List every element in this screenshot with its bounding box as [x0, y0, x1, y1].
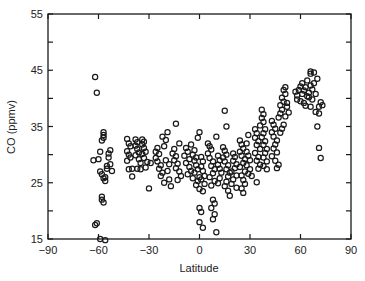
data-point [217, 176, 222, 181]
data-point [160, 134, 165, 139]
data-point [177, 141, 182, 146]
data-point [145, 159, 150, 164]
data-point [148, 160, 153, 165]
data-point [210, 217, 215, 222]
data-point [313, 91, 318, 96]
x-tick-label: −90 [39, 244, 58, 256]
data-point [182, 153, 187, 158]
data-point [264, 167, 269, 172]
data-point [305, 78, 310, 83]
data-point [146, 186, 151, 191]
y-tick-label: 15 [31, 233, 43, 245]
data-point [103, 238, 108, 243]
data-point [209, 205, 214, 210]
data-point [200, 225, 205, 230]
tick-labels: −90−60−3003060901525354555 [31, 8, 357, 256]
scatter-chart: −90−60−3003060901525354555 Latitude CO (… [0, 0, 365, 281]
data-point [91, 158, 96, 163]
data-point [168, 184, 173, 189]
data-point [258, 123, 263, 128]
data-point [143, 165, 148, 170]
data-point [165, 168, 170, 173]
data-point [318, 155, 323, 160]
data-point [167, 177, 172, 182]
data-point [209, 183, 214, 188]
data-point [283, 114, 288, 119]
data-point [207, 175, 212, 180]
data-point [195, 135, 200, 140]
data-point [94, 90, 99, 95]
data-point [173, 121, 178, 126]
data-point [246, 132, 251, 137]
data-point [167, 162, 172, 167]
data-point [226, 188, 231, 193]
data-point [93, 74, 98, 79]
data-point [316, 145, 321, 150]
x-tick-label: 60 [294, 244, 306, 256]
x-tick-label: −30 [140, 244, 159, 256]
data-point [125, 158, 130, 163]
data-point [311, 70, 316, 75]
y-tick-label: 25 [31, 177, 43, 189]
data-point [126, 167, 131, 172]
data-point [98, 149, 103, 154]
data-point [130, 174, 135, 179]
data-point [222, 108, 227, 113]
data-point [244, 141, 249, 146]
data-point [227, 193, 232, 198]
x-tick-label: 0 [196, 244, 202, 256]
data-point [202, 181, 207, 186]
data-point [234, 185, 239, 190]
y-tick-label: 55 [31, 8, 43, 20]
data-point [162, 144, 167, 149]
data-point [214, 230, 219, 235]
data-point [237, 164, 242, 169]
data-point [212, 212, 217, 217]
y-axis-title: CO (ppmv) [5, 100, 17, 154]
data-point [185, 172, 190, 177]
y-tick-label: 45 [31, 64, 43, 76]
data-point [308, 104, 313, 109]
data-point [109, 168, 114, 173]
x-tick-label: 90 [345, 244, 357, 256]
data-point [190, 176, 195, 181]
data-points [91, 69, 325, 243]
data-point [197, 130, 202, 135]
data-point [224, 124, 229, 129]
data-point [274, 150, 279, 155]
data-point [162, 180, 167, 185]
y-tick-label: 35 [31, 121, 43, 133]
data-point [315, 76, 320, 81]
x-axis-title: Latitude [179, 262, 218, 274]
data-point [175, 177, 180, 182]
data-point [165, 130, 170, 135]
x-tick-label: −60 [89, 244, 108, 256]
data-point [214, 134, 219, 139]
data-point [138, 167, 143, 172]
data-point [254, 180, 259, 185]
data-point [188, 142, 193, 147]
data-point [96, 157, 101, 162]
data-point [197, 220, 202, 225]
data-point [315, 124, 320, 129]
x-tick-label: 30 [244, 244, 256, 256]
